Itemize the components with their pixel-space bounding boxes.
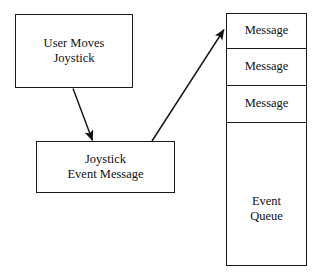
queue-cell-message-3: Message [227,86,306,123]
arrow-user-to-message-icon [73,89,93,141]
event-queue-label-line-1: Event [227,194,306,209]
queue-cell-message-2: Message [227,49,306,86]
box-joystick-event-message: Joystick Event Message [36,141,175,193]
arrow-message-to-queue-icon [152,30,224,142]
event-queue-label-line-2: Queue [227,209,306,224]
box-joystick-event-line-1: Joystick [85,152,126,167]
box-user-moves-line-2: Joystick [54,51,95,66]
box-user-moves-joystick: User Moves Joystick [15,14,133,88]
box-joystick-event-line-2: Event Message [67,167,143,182]
diagram-canvas: User Moves Joystick Joystick Event Messa… [0,0,323,276]
box-user-moves-line-1: User Moves [44,36,105,51]
event-queue-label: Event Queue [227,123,306,265]
queue-cell-message-1: Message [227,14,306,49]
event-queue: Message Message Message Event Queue [226,13,307,266]
